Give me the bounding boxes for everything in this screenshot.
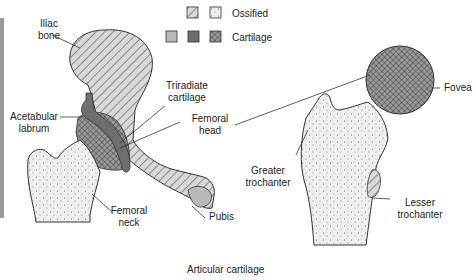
label-greater-trochanter: Greater trochanter <box>240 165 296 189</box>
legend-cartilage-label: Cartilage <box>232 32 272 43</box>
label-articular-cartilage: Articular cartilage <box>187 264 264 276</box>
legend-swatches <box>166 7 221 42</box>
label-acetabular-labrum: Acetabular labrum <box>8 111 60 135</box>
label-pubis: Pubis <box>209 211 234 223</box>
label-triradiate-cartilage: Triradiate cartilage <box>163 80 211 104</box>
hip-ossification-diagram: Ossified Cartilage Iliac bone Acetabular… <box>0 0 475 280</box>
label-femoral-head: Femoral head <box>186 113 234 137</box>
label-iliac-bone: Iliac bone <box>34 18 64 42</box>
legend-ossified-label: Ossified <box>232 8 268 19</box>
label-lesser-trochanter: Lesser trochanter <box>392 197 448 221</box>
label-femoral-neck: Femoral neck <box>105 205 153 229</box>
label-fovea: Fovea <box>444 82 472 94</box>
